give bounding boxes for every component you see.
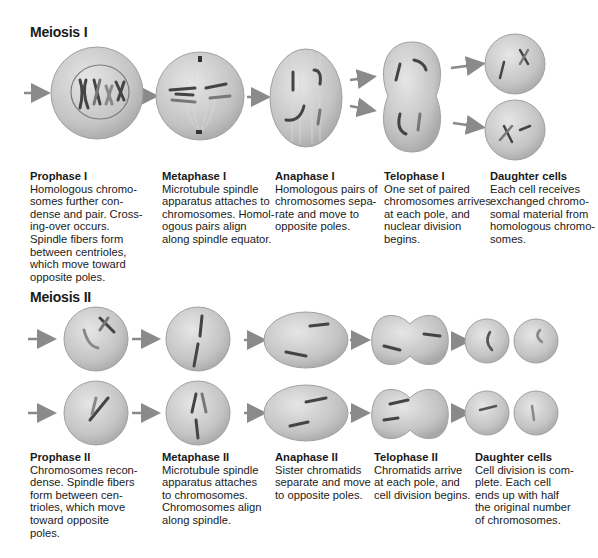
- stage-name: Anaphase II: [275, 451, 371, 464]
- anaphase-2-cells: [264, 312, 348, 441]
- stage-description: Cell division is com- plete. Each cell e…: [475, 464, 574, 527]
- stage-description: Chromatids arrive at each pole, and cell…: [374, 464, 470, 502]
- stage-name: Metaphase I: [162, 170, 275, 183]
- stage-caption-daughter-cells-1: Daughter cells Each cell receives exchan…: [490, 170, 595, 246]
- stage-description: Each cell receives exchanged chromo- som…: [490, 183, 595, 246]
- stage-name: Telophase I: [384, 170, 491, 183]
- stage-caption-anaphase-1: Anaphase I Homologous pairs of chromosom…: [275, 170, 378, 233]
- daughter-cells-1: [485, 34, 545, 160]
- stage-description: Homologous pairs of chromosomes sepa- ra…: [275, 183, 378, 233]
- stage-caption-metaphase-2: Metaphase II Microtubule spindle apparat…: [162, 451, 262, 527]
- anaphase-1-cell: [270, 49, 342, 147]
- stage-description: One set of paired chromosomes arrives at…: [384, 183, 491, 246]
- telophase-1-cell: [383, 42, 440, 152]
- stage-name: Prophase I: [30, 170, 143, 183]
- daughter-cells-2: [465, 319, 558, 435]
- stage-name: Anaphase I: [275, 170, 378, 183]
- stage-name: Telophase II: [374, 451, 470, 464]
- stage-description: Chromosomes recon- dense. Spindle fibers…: [30, 464, 138, 540]
- stage-description: Sister chromatids separate and move to o…: [275, 464, 371, 502]
- stage-caption-prophase-1: Prophase I Homologous chromo- somes furt…: [30, 170, 143, 283]
- metaphase-1-cell: [156, 52, 244, 140]
- meiosis-2-title: Meiosis II: [30, 289, 91, 305]
- stage-name: Metaphase II: [162, 451, 262, 464]
- stage-description: Microtubule spindle apparatus attaches t…: [162, 464, 262, 527]
- stage-caption-anaphase-2: Anaphase II Sister chromatids separate a…: [275, 451, 371, 501]
- stage-caption-telophase-2: Telophase II Chromatids arrive at each p…: [374, 451, 470, 501]
- stage-caption-telophase-1: Telophase I One set of paired chromosome…: [384, 170, 491, 246]
- stage-caption-prophase-2: Prophase II Chromosomes recon- dense. Sp…: [30, 451, 138, 539]
- stage-name: Daughter cells: [475, 451, 574, 464]
- prophase-1-cell: [51, 47, 143, 139]
- metaphase-2-cells: [166, 307, 230, 445]
- prophase-2-cells: [64, 307, 128, 445]
- stage-name: Prophase II: [30, 451, 138, 464]
- stage-caption-metaphase-1: Metaphase I Microtubule spindle apparatu…: [162, 170, 275, 246]
- telophase-2-cells: [372, 315, 449, 438]
- stage-description: Microtubule spindle apparatus attaches t…: [162, 183, 275, 246]
- stage-description: Homologous chromo- somes further con- de…: [30, 183, 143, 284]
- stage-caption-daughter-cells-2: Daughter cells Cell division is com- ple…: [475, 451, 574, 527]
- stage-name: Daughter cells: [490, 170, 595, 183]
